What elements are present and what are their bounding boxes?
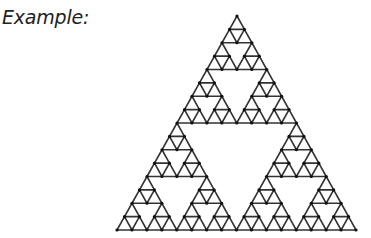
small-triangle (199, 177, 214, 190)
vertex-dot (145, 175, 148, 178)
small-triangle (282, 136, 297, 149)
small-triangle (222, 110, 237, 123)
small-triangle (177, 136, 192, 149)
small-triangle (162, 217, 177, 230)
vertex-dot (220, 202, 223, 205)
small-triangle (177, 110, 192, 123)
vertex-dot (258, 55, 261, 58)
small-triangle (304, 203, 319, 216)
vertex-dot (265, 121, 268, 124)
small-triangle (222, 56, 237, 69)
small-triangle (192, 190, 207, 203)
small-triangle (251, 217, 266, 230)
small-triangle (207, 83, 222, 96)
vertex-dot (258, 81, 261, 84)
small-triangle (170, 123, 185, 136)
vertex-dot (213, 188, 216, 191)
small-triangle (222, 217, 237, 230)
small-triangle (274, 96, 289, 109)
vertex-dot (220, 228, 223, 231)
vertex-dot (317, 162, 320, 165)
vertex-dot (153, 162, 156, 165)
small-triangle (192, 163, 207, 176)
vertex-dot (250, 228, 253, 231)
small-triangle (177, 217, 192, 230)
small-triangle (334, 203, 349, 216)
vertex-dot (340, 202, 343, 205)
vertex-dot (302, 215, 305, 218)
small-triangle (230, 16, 245, 29)
vertex-dot (175, 121, 178, 124)
small-triangle (207, 110, 222, 123)
vertex-dot (258, 108, 261, 111)
vertex-dot (325, 228, 328, 231)
vertex-dot (250, 41, 253, 44)
vertex-dot (190, 202, 193, 205)
vertex-dot (250, 202, 253, 205)
vertex-dot (235, 121, 238, 124)
small-triangle (244, 96, 259, 109)
vertex-dot (138, 188, 141, 191)
vertex-dot (183, 162, 186, 165)
vertex-dot (123, 215, 126, 218)
small-triangle (281, 163, 296, 176)
small-triangle (200, 70, 215, 83)
small-triangle (281, 217, 296, 230)
small-triangle (177, 163, 192, 176)
vertex-dot (317, 215, 320, 218)
vertex-dot (339, 228, 342, 231)
vertex-dot (175, 148, 178, 151)
small-triangle (252, 110, 267, 123)
vertex-dot (243, 28, 246, 31)
small-triangle (296, 136, 311, 149)
small-triangle (214, 96, 229, 109)
vertex-dot (220, 95, 223, 98)
small-triangle (237, 56, 252, 69)
vertex-dot (145, 228, 148, 231)
vertex-dot (310, 202, 313, 205)
vertex-dot (295, 175, 298, 178)
small-triangle (274, 203, 289, 216)
small-triangle (266, 217, 281, 230)
vertex-dot (280, 202, 283, 205)
small-triangle (215, 43, 230, 56)
vertex-dot (235, 41, 238, 44)
vertex-dot (160, 148, 163, 151)
vertex-dot (243, 108, 246, 111)
small-triangle (132, 217, 147, 230)
small-triangle (267, 110, 282, 123)
vertex-dot (130, 202, 133, 205)
vertex-dot (190, 121, 193, 124)
vertex-dot (280, 95, 283, 98)
vertex-dot (235, 68, 238, 71)
vertex-dot (280, 121, 283, 124)
small-triangle (140, 177, 155, 190)
vertex-dot (257, 188, 260, 191)
small-triangle (311, 163, 326, 176)
vertex-dot (205, 228, 208, 231)
small-triangle (162, 136, 177, 149)
vertex-dot (302, 135, 305, 138)
small-triangle (266, 190, 281, 203)
vertex-dot (213, 81, 216, 84)
vertex-dots (115, 14, 357, 231)
vertex-dot (205, 95, 208, 98)
vertex-dot (205, 68, 208, 71)
vertex-dot (145, 202, 148, 205)
vertex-dot (160, 202, 163, 205)
small-triangle (282, 110, 297, 123)
vertex-dot (153, 215, 156, 218)
small-triangle (326, 217, 341, 230)
small-triangle (252, 83, 267, 96)
vertex-dot (310, 148, 313, 151)
vertex-dot (265, 228, 268, 231)
vertex-dot (235, 14, 238, 17)
vertex-dot (160, 228, 163, 231)
vertex-dot (272, 162, 275, 165)
vertex-dot (287, 135, 290, 138)
vertex-dot (325, 175, 328, 178)
small-triangle (252, 190, 267, 203)
vertex-dot (160, 175, 163, 178)
small-triangle (192, 217, 207, 230)
vertex-dot (220, 41, 223, 44)
